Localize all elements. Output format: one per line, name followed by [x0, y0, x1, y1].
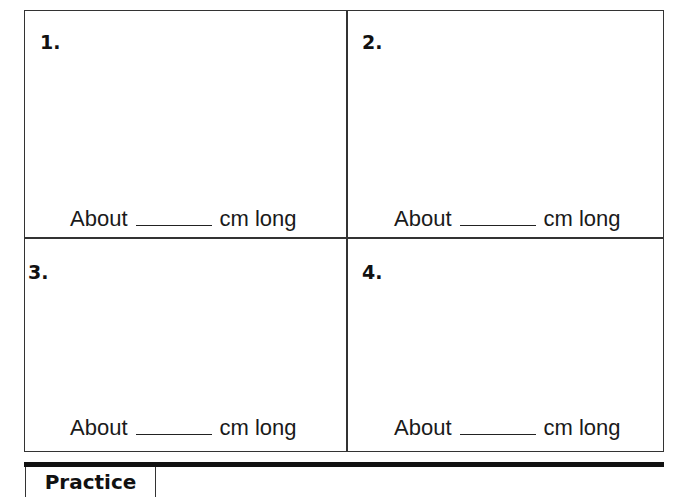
- practice-tab: Practice: [25, 467, 156, 497]
- problem-grid: 1. Aboutcm long 2. Aboutcm long 3. About…: [24, 10, 664, 452]
- answer-blank[interactable]: [460, 224, 536, 226]
- answer-prefix: About: [70, 206, 128, 231]
- practice-label: Practice: [45, 470, 137, 494]
- answer-unit: cm long: [220, 206, 297, 231]
- answer-line: Aboutcm long: [394, 206, 621, 232]
- problem-number: 4.: [362, 261, 382, 283]
- answer-blank[interactable]: [136, 433, 212, 435]
- problem-number: 2.: [362, 31, 382, 53]
- answer-line: Aboutcm long: [70, 415, 297, 441]
- answer-unit: cm long: [544, 415, 621, 440]
- answer-prefix: About: [394, 206, 452, 231]
- problem-cell-2: 2. Aboutcm long: [347, 11, 665, 237]
- problem-cell-3: 3. Aboutcm long: [25, 238, 346, 453]
- problem-number: 3.: [28, 261, 48, 283]
- answer-unit: cm long: [220, 415, 297, 440]
- answer-blank[interactable]: [136, 224, 212, 226]
- answer-line: Aboutcm long: [70, 206, 297, 232]
- answer-line: Aboutcm long: [394, 415, 621, 441]
- answer-prefix: About: [394, 415, 452, 440]
- answer-blank[interactable]: [460, 433, 536, 435]
- problem-cell-4: 4. Aboutcm long: [347, 238, 665, 453]
- answer-prefix: About: [70, 415, 128, 440]
- answer-unit: cm long: [544, 206, 621, 231]
- problem-cell-1: 1. Aboutcm long: [25, 11, 346, 237]
- problem-number: 1.: [40, 31, 60, 53]
